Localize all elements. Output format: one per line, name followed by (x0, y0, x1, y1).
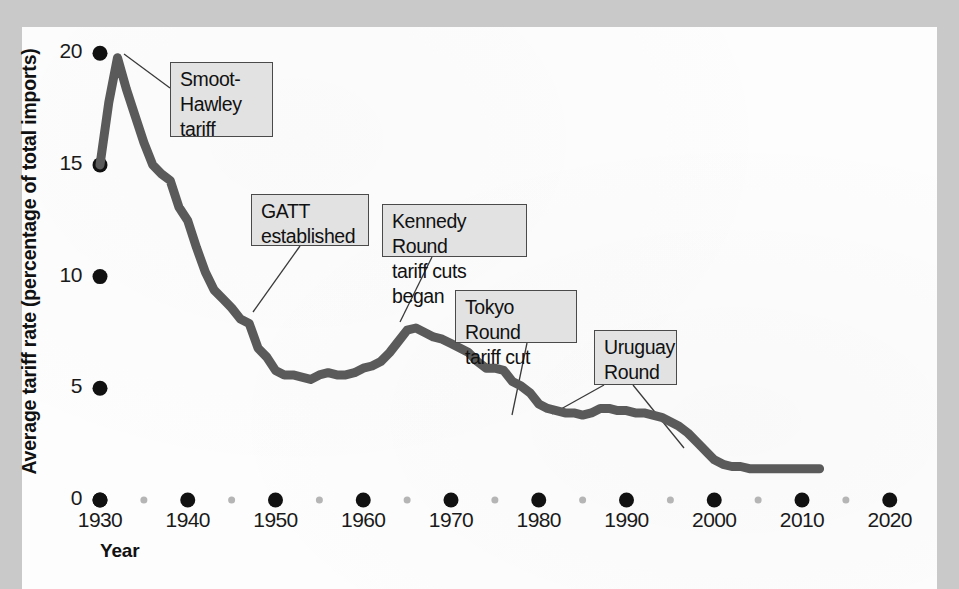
x-tick-label-1930: 1930 (60, 508, 140, 532)
leader-line-smoot-hawley (124, 54, 170, 88)
x-axis-minor-ticks (140, 497, 849, 504)
x-minor-tick-dot-1985 (579, 497, 586, 504)
x-tick-label-2020: 2020 (850, 508, 930, 532)
x-tick-dot-1970 (444, 493, 459, 508)
x-tick-label-1960: 1960 (323, 508, 403, 532)
y-tick-label-5: 5 (38, 374, 82, 398)
x-minor-tick-dot-1935 (140, 497, 147, 504)
x-minor-tick-dot-1975 (491, 497, 498, 504)
x-tick-dot-1950 (268, 493, 283, 508)
figure-canvas: Average tariff rate (percentage of total… (0, 0, 959, 589)
annotation-kennedy-round: Kennedy Round tariff cuts began (382, 204, 527, 257)
y-tick-label-15: 15 (38, 151, 82, 175)
x-axis-title: Year (100, 540, 139, 562)
x-tick-label-1950: 1950 (236, 508, 316, 532)
y-tick-dot-10 (93, 269, 108, 284)
x-tick-label-2000: 2000 (674, 508, 754, 532)
x-minor-tick-dot-2015 (842, 497, 849, 504)
x-tick-dot-2010 (795, 493, 810, 508)
y-tick-label-0: 0 (38, 486, 82, 510)
annotation-gatt: GATT established (251, 194, 369, 246)
y-tick-label-20: 20 (38, 39, 82, 63)
x-tick-dot-2000 (707, 493, 722, 508)
x-tick-label-1990: 1990 (587, 508, 667, 532)
y-tick-label-10: 10 (38, 263, 82, 287)
x-minor-tick-dot-2005 (755, 497, 762, 504)
annotation-smoot-hawley: Smoot- Hawley tariff (170, 62, 273, 137)
x-tick-dot-1980 (531, 493, 546, 508)
annotation-uruguay-round: Uruguay Round (594, 330, 677, 385)
x-tick-dot-2020 (882, 493, 897, 508)
y-tick-dot-5 (93, 381, 108, 396)
leader-line-gatt (253, 246, 300, 312)
y-tick-dot-20 (93, 46, 108, 61)
x-tick-label-1940: 1940 (148, 508, 228, 532)
y-tick-dot-0 (93, 493, 108, 508)
x-tick-label-1970: 1970 (411, 508, 491, 532)
x-minor-tick-dot-1945 (228, 497, 235, 504)
x-tick-dot-1960 (356, 493, 371, 508)
annotation-tokyo-round: Tokyo Round tariff cut (455, 290, 577, 343)
y-axis-title: Average tariff rate (percentage of total… (18, 27, 41, 497)
x-minor-tick-dot-1995 (667, 497, 674, 504)
x-tick-label-2010: 2010 (762, 508, 842, 532)
x-tick-dot-1940 (180, 493, 195, 508)
x-tick-dot-1990 (619, 493, 634, 508)
x-minor-tick-dot-1965 (404, 497, 411, 504)
x-minor-tick-dot-1955 (316, 497, 323, 504)
x-tick-label-1980: 1980 (499, 508, 579, 532)
